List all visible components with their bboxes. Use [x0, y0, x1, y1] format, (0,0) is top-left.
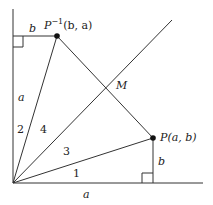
label-region-3: 3 — [63, 145, 70, 158]
point-p — [150, 135, 156, 141]
label-region-1: 1 — [73, 167, 80, 180]
label-side-top-b: b — [29, 22, 36, 35]
label-side-right-b: b — [158, 155, 165, 168]
right-angle-marker-bottom — [142, 173, 153, 183]
label-m: M — [115, 79, 128, 92]
label-p: P(a, b) — [159, 131, 197, 144]
point-p-inverse — [54, 33, 60, 39]
label-region-2: 2 — [17, 123, 24, 136]
label-region-4: 4 — [40, 123, 47, 136]
label-p-inverse: P−1(b, a) — [43, 17, 92, 32]
label-side-left-a: a — [18, 91, 25, 104]
diagonal-line-y-equals-x — [13, 20, 172, 183]
segment-origin-to-p — [13, 138, 153, 183]
reflection-diagram: P−1(b, a) P(a, b) M b a b a 1 2 3 4 — [0, 0, 213, 205]
right-angle-marker-top — [13, 36, 23, 47]
label-side-bottom-a: a — [83, 188, 90, 201]
